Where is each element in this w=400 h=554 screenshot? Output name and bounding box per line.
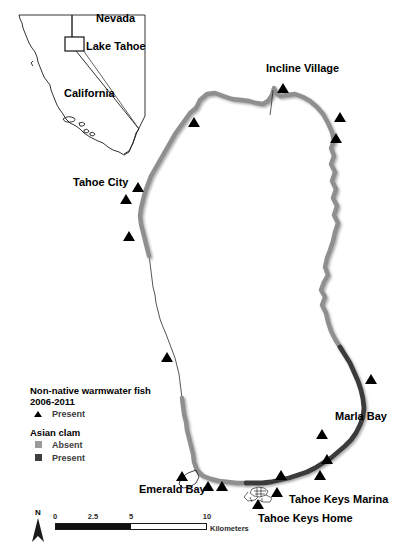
north-letter: N — [28, 508, 48, 517]
scale-bar: 0 2.5 5 10 — [55, 512, 207, 530]
fish-marker — [271, 487, 283, 497]
scale-tick-10: 10 — [203, 512, 211, 521]
legend-title-asian-clam: Asian clam — [30, 427, 151, 438]
fish-marker — [365, 374, 377, 384]
fish-marker — [216, 481, 228, 491]
triangle-icon — [30, 411, 46, 417]
place-label-incline-village: Incline Village — [266, 63, 339, 75]
scale-segment-empty — [131, 524, 206, 529]
scale-tick-5: 5 — [129, 512, 133, 521]
legend-label-clam-absent: Absent — [52, 440, 83, 450]
legend-label-clam-present: Present — [52, 453, 85, 463]
scale-segment-filled-2 — [94, 524, 132, 529]
north-arrow-icon — [28, 517, 48, 543]
fish-marker — [123, 231, 135, 241]
legend-row-clam-present: Present — [30, 451, 151, 464]
fish-marker — [120, 194, 132, 204]
fish-marker — [188, 117, 200, 127]
fish-marker — [314, 470, 326, 480]
fish-marker — [176, 471, 188, 481]
scale-bar-segments — [55, 523, 207, 530]
place-label-tahoe-keys-marina: Tahoe Keys Marina — [289, 494, 388, 506]
legend-row-fish-present: Present — [30, 407, 151, 420]
legend-title-fish-line1: Non-native warmwater fish — [30, 385, 151, 396]
fish-marker — [277, 83, 289, 93]
scale-units-label: Kilometers — [210, 524, 249, 533]
legend-row-clam-absent: Absent — [30, 438, 151, 451]
scale-tick-25: 2.5 — [88, 512, 98, 521]
fish-marker — [334, 112, 346, 122]
fish-present-triangles — [120, 83, 377, 509]
fish-present-markers-layer — [0, 0, 400, 554]
place-label-emerald-bay: Emerald Bay — [139, 484, 206, 496]
fish-marker — [316, 429, 328, 439]
square-absent-icon — [30, 441, 46, 448]
legend-title-fish-line2: 2006-2011 — [30, 396, 151, 407]
fish-marker — [161, 352, 173, 362]
legend-label-fish-present: Present — [52, 409, 85, 419]
place-label-tahoe-city: Tahoe City — [73, 177, 128, 189]
scale-tick-0: 0 — [53, 512, 57, 521]
place-label-tahoe-keys-home: Tahoe Keys Home — [258, 513, 353, 525]
lake-tahoe-map-figure: Nevada Lake Tahoe California — [0, 0, 400, 554]
fish-marker — [252, 499, 264, 509]
scale-tick-labels: 0 2.5 5 10 — [55, 512, 207, 523]
square-present-icon — [30, 454, 46, 461]
scale-segment-filled-1 — [56, 524, 94, 529]
north-arrow: N — [28, 508, 48, 547]
place-label-marla-bay: Marla Bay — [335, 411, 387, 423]
fish-marker — [330, 133, 342, 143]
fish-marker — [275, 470, 287, 480]
legend: Non-native warmwater fish 2006-2011 Pres… — [30, 385, 151, 464]
fish-marker — [132, 182, 144, 192]
fish-marker — [321, 454, 333, 464]
